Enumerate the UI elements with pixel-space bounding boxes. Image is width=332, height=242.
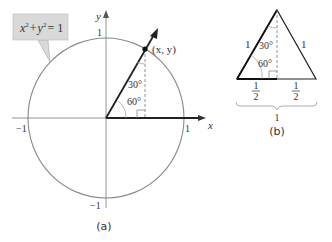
side-left-label: 1: [245, 38, 251, 50]
right-angle-marker: [137, 110, 145, 118]
tick-x-pos: 1: [185, 123, 190, 134]
svg-text:1: 1: [294, 80, 299, 91]
side-right-label: 1: [301, 38, 307, 50]
caption-b: (b): [269, 125, 285, 138]
angle-60-label: 60°: [127, 96, 141, 107]
caption-a: (a): [96, 220, 111, 233]
fraction-half-left: 1 2: [252, 80, 260, 102]
brace: [236, 102, 317, 110]
point-xy: [142, 46, 147, 51]
svg-text:1: 1: [254, 80, 259, 91]
tick-x-neg: −1: [16, 123, 27, 134]
angle-30-label: 30°: [128, 79, 142, 90]
right-angle-marker-b: [269, 71, 277, 79]
tick-y-pos: 1: [97, 27, 102, 38]
figure-b: 1 1 30° 60° 1 2 1 2 1 (b): [236, 10, 317, 138]
svg-text:2: 2: [254, 91, 259, 102]
ray-arrow-icon: [150, 28, 158, 39]
fraction-half-right: 1 2: [292, 80, 300, 102]
angle-30-label-b: 30°: [259, 40, 273, 51]
trig-diagram: x2+y2= 1 x y 1 −1 1 −1 (x, y) 30° 60°: [0, 0, 332, 242]
svg-text:2: 2: [294, 91, 299, 102]
equation-callout: x2+y2= 1: [13, 14, 68, 62]
y-axis-arrow-icon: [103, 10, 109, 18]
point-label: (x, y): [152, 43, 176, 56]
angle-60-label-b: 60°: [258, 58, 272, 69]
figure-a: x2+y2= 1 x y 1 −1 1 −1 (x, y) 30° 60°: [12, 10, 213, 233]
x-axis-label: x: [207, 119, 213, 131]
tick-y-neg: −1: [90, 200, 101, 211]
base-total-label: 1: [275, 112, 280, 123]
x-axis-arrow-icon: [198, 115, 206, 121]
y-axis-label: y: [95, 10, 101, 22]
